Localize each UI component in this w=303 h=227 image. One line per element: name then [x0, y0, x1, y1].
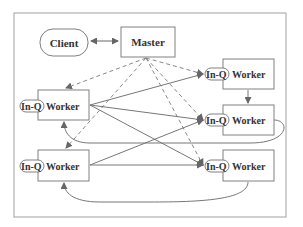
worker-label: Worker — [232, 161, 266, 172]
master-node: Master — [121, 27, 175, 57]
worker-right-bottom: In-Q Worker — [205, 150, 274, 181]
master-label: Master — [131, 36, 165, 48]
worker-left-top: In-Q Worker — [20, 90, 89, 120]
worker-label: Worker — [232, 115, 266, 126]
worker-label: Worker — [232, 69, 266, 80]
worker-label: Worker — [46, 101, 80, 112]
worker-left-bottom: In-Q Worker — [20, 150, 89, 181]
worker-right-middle: In-Q Worker — [205, 105, 274, 135]
in-q-label: In-Q — [206, 115, 227, 126]
diagram-canvas: Client Master In-Q Worker In-Q Worker In… — [0, 0, 303, 227]
worker-data-edges — [64, 74, 284, 202]
worker-label: Worker — [46, 161, 80, 172]
in-q-label: In-Q — [206, 161, 227, 172]
client-label: Client — [50, 37, 79, 49]
in-q-label: In-Q — [206, 69, 227, 80]
in-q-label: In-Q — [21, 101, 42, 112]
in-q-label: In-Q — [21, 161, 42, 172]
worker-right-top: In-Q Worker — [205, 59, 274, 89]
client-node: Client — [40, 29, 88, 56]
